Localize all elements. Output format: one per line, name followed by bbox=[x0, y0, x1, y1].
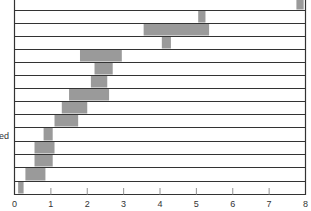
range-bar bbox=[296, 0, 303, 10]
range-bar bbox=[18, 182, 23, 194]
x-tick-label: 7 bbox=[267, 199, 272, 209]
x-tick-label: 8 bbox=[303, 199, 308, 209]
x-tick-labels: 012345678 bbox=[12, 199, 308, 209]
bars bbox=[18, 0, 304, 194]
range-bar-chart: 012345678 ed bbox=[0, 0, 311, 211]
range-bar bbox=[80, 50, 122, 62]
range-bar bbox=[95, 63, 113, 75]
range-bar bbox=[198, 11, 205, 23]
x-tick-label: 0 bbox=[12, 199, 17, 209]
range-bar bbox=[144, 24, 209, 36]
range-bar bbox=[44, 128, 53, 141]
x-tick-label: 6 bbox=[230, 199, 235, 209]
x-tick-label: 3 bbox=[121, 199, 126, 209]
range-bar bbox=[69, 89, 109, 101]
range-bar bbox=[35, 142, 55, 154]
x-tick-label: 1 bbox=[48, 199, 53, 209]
range-bar bbox=[91, 76, 107, 88]
side-label-fragment: ed bbox=[0, 131, 9, 141]
range-bar bbox=[25, 168, 45, 181]
x-tick-label: 2 bbox=[85, 199, 90, 209]
x-tick-label: 4 bbox=[157, 199, 162, 209]
range-bar bbox=[55, 115, 79, 127]
x-tick-label: 5 bbox=[194, 199, 199, 209]
range-bar bbox=[35, 155, 53, 167]
range-bar bbox=[162, 37, 171, 49]
row-separators bbox=[14, 11, 306, 182]
range-bar bbox=[62, 102, 87, 114]
